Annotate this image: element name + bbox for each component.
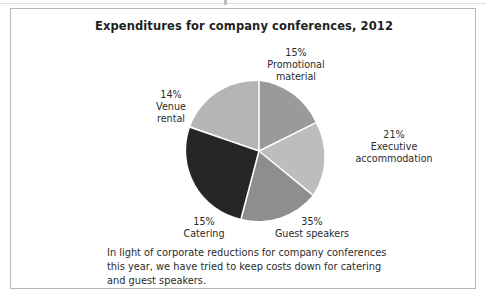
pie-label-venue-percent: 14% bbox=[129, 89, 213, 101]
pie-label-catering-percent: 15% bbox=[159, 216, 249, 228]
pie-label-guest-percent: 35% bbox=[257, 216, 367, 228]
pie-label-executive-accommodation: 21% Executive accommodation bbox=[329, 129, 459, 165]
scan-artifact-line bbox=[0, 3, 486, 4]
figure-caption-line-1: In light of corporate reductions for com… bbox=[107, 246, 437, 260]
scan-artifact-mark bbox=[224, 0, 227, 5]
pie-label-guest-speakers: 35% Guest speakers bbox=[257, 216, 367, 240]
pie-label-executive-line1: Executive bbox=[329, 141, 459, 153]
pie-label-executive-percent: 21% bbox=[329, 129, 459, 141]
figure-frame: Expenditures for company conferences, 20… bbox=[10, 8, 476, 289]
pie-label-venue-rental: 14% Venue rental bbox=[129, 89, 213, 125]
figure-caption-line-3: and guest speakers. bbox=[107, 274, 437, 288]
pie-label-guest-line1: Guest speakers bbox=[257, 228, 367, 240]
figure-caption: In light of corporate reductions for com… bbox=[107, 246, 437, 288]
pie-label-venue-line1: Venue bbox=[129, 101, 213, 113]
pie-label-catering: 15% Catering bbox=[159, 216, 249, 240]
figure-caption-line-2: this year, we have tried to keep costs d… bbox=[107, 260, 437, 274]
pie-label-promotional-percent: 15% bbox=[241, 47, 351, 59]
pie-label-promotional-line2: material bbox=[241, 71, 351, 83]
pie-label-venue-line2: rental bbox=[129, 113, 213, 125]
pie-label-promotional-line1: Promotional bbox=[241, 59, 351, 71]
pie-label-promotional-material: 15% Promotional material bbox=[241, 47, 351, 83]
pie-label-catering-line1: Catering bbox=[159, 228, 249, 240]
pie-label-executive-line2: accommodation bbox=[329, 153, 459, 165]
